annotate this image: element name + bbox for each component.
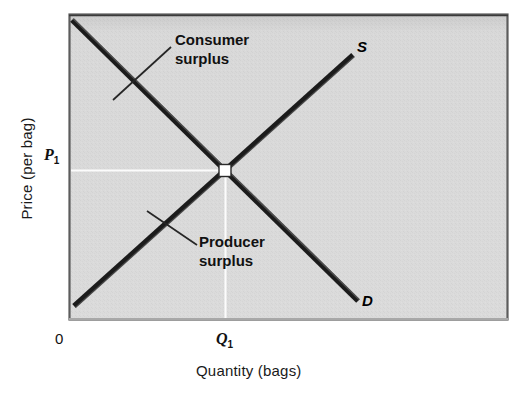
equilibrium-price-symbol: P: [44, 146, 54, 163]
consumer-surplus-line-1: Consumer: [175, 30, 249, 49]
equilibrium-quantity-symbol: Q: [216, 330, 228, 347]
consumer-surplus-annotation: Consumer surplus: [175, 30, 249, 68]
supply-curve-label: S: [357, 38, 367, 55]
equilibrium-point-marker: [219, 165, 231, 177]
y-axis-title: Price (per bag): [18, 89, 35, 249]
producer-surplus-annotation: Producer surplus: [199, 232, 265, 270]
equilibrium-price-subscript: 1: [54, 155, 60, 166]
origin-label: 0: [55, 330, 63, 347]
chart-canvas: [0, 0, 530, 417]
demand-curve-label: D: [362, 292, 373, 309]
plot-area-shading: [69, 14, 508, 320]
equilibrium-price-label: P1: [44, 146, 59, 166]
consumer-surplus-line-2: surplus: [175, 49, 249, 68]
producer-surplus-line-1: Producer: [199, 232, 265, 251]
equilibrium-quantity-subscript: 1: [228, 339, 234, 350]
supply-demand-figure: Price (per bag) Quantity (bags) 0 P1 Q1 …: [0, 0, 530, 417]
x-axis-title: Quantity (bags): [196, 362, 302, 379]
producer-surplus-line-2: surplus: [199, 251, 265, 270]
equilibrium-quantity-label: Q1: [216, 330, 233, 350]
